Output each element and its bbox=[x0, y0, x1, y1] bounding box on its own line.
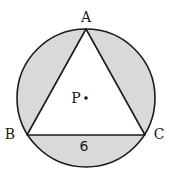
vertex-label-c: C bbox=[154, 126, 165, 142]
vertex-label-b: B bbox=[5, 126, 15, 142]
vertex-label-a: A bbox=[80, 9, 92, 25]
side-length-bc: 6 bbox=[80, 138, 89, 154]
center-point-p bbox=[84, 96, 88, 100]
inscribed-triangle-diagram: A B C P 6 bbox=[0, 0, 169, 174]
center-label-p: P bbox=[71, 90, 80, 106]
